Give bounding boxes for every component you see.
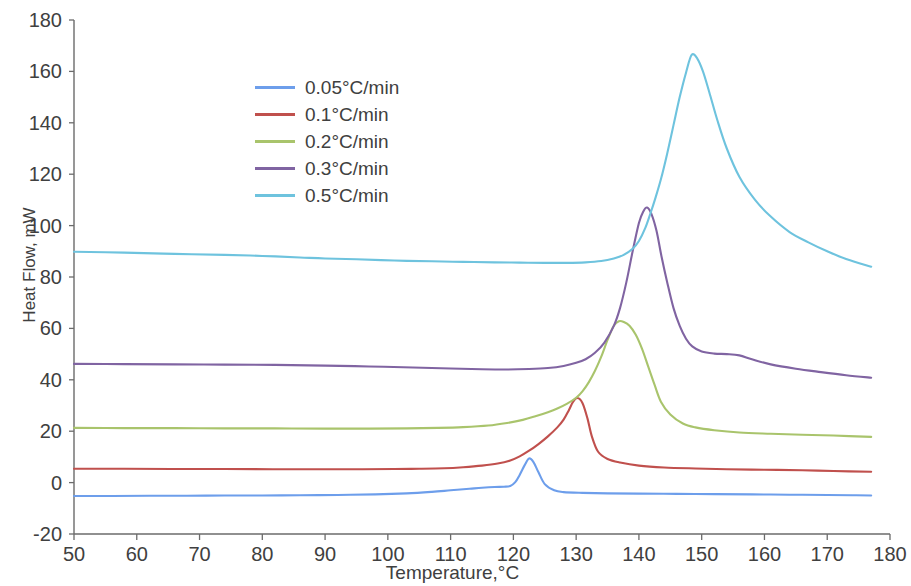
legend-label: 0.05°C/min — [305, 77, 399, 99]
x-tick-label: 90 — [295, 544, 355, 564]
chart-legend: 0.05°C/min0.1°C/min0.2°C/min0.3°C/min0.5… — [255, 74, 399, 209]
legend-color-swatch — [255, 113, 295, 116]
legend-label: 0.2°C/min — [305, 131, 389, 153]
legend-item: 0.05°C/min — [255, 74, 399, 101]
legend-item: 0.1°C/min — [255, 101, 399, 128]
y-axis-title: Heat Flow, mW — [20, 165, 40, 365]
legend-label: 0.1°C/min — [305, 104, 389, 126]
y-tick-label: 160 — [0, 61, 62, 81]
y-tick-label: 20 — [0, 421, 62, 441]
series-lines — [74, 54, 871, 496]
legend-item: 0.5°C/min — [255, 182, 399, 209]
x-tick-label: 100 — [358, 544, 418, 564]
y-tick-label: 180 — [0, 10, 62, 30]
series-line-2 — [74, 398, 871, 472]
legend-color-swatch — [255, 167, 295, 170]
x-tick-label: 60 — [107, 544, 167, 564]
legend-color-swatch — [255, 86, 295, 89]
series-line-1 — [74, 458, 871, 496]
x-axis-title: Temperature,°C — [0, 562, 905, 584]
x-tick-label: 150 — [672, 544, 732, 564]
axes — [69, 20, 890, 540]
x-tick-label: 110 — [421, 544, 481, 564]
legend-color-swatch — [255, 194, 295, 197]
legend-label: 0.5°C/min — [305, 185, 389, 207]
x-tick-label: 170 — [797, 544, 857, 564]
y-tick-label: 40 — [0, 370, 62, 390]
series-line-4 — [74, 208, 871, 378]
x-tick-label: 160 — [734, 544, 794, 564]
legend-item: 0.3°C/min — [255, 155, 399, 182]
x-tick-label: 140 — [609, 544, 669, 564]
series-line-5 — [74, 54, 871, 267]
legend-item: 0.2°C/min — [255, 128, 399, 155]
x-tick-label: 120 — [483, 544, 543, 564]
x-tick-label: 130 — [546, 544, 606, 564]
series-line-3 — [74, 321, 871, 437]
x-tick-label: 180 — [860, 544, 911, 564]
legend-label: 0.3°C/min — [305, 158, 389, 180]
y-tick-label: 140 — [0, 113, 62, 133]
x-tick-label: 80 — [232, 544, 292, 564]
x-tick-label: 70 — [170, 544, 230, 564]
x-tick-label: 50 — [44, 544, 104, 564]
y-tick-label: 0 — [0, 473, 62, 493]
legend-color-swatch — [255, 140, 295, 143]
y-tick-label: -20 — [0, 524, 62, 544]
